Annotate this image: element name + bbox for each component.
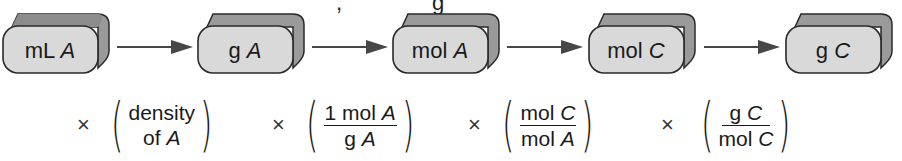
arrow-right-icon (704, 40, 780, 54)
numerator: 1 mol A (324, 100, 397, 126)
fraction: 1 mol A g A (324, 100, 397, 151)
factor-mole-ratio: × ( mol C mol A ) (468, 92, 599, 158)
arrow-right-icon (507, 40, 583, 54)
factor-text: density of A (129, 100, 196, 150)
left-paren: ( (701, 96, 713, 154)
factor-molar-mass-a: × ( 1 mol A g A ) (272, 92, 419, 158)
denominator: mol A (521, 126, 575, 151)
right-paren: ) (778, 96, 790, 154)
left-paren: ( (111, 96, 123, 154)
left-paren: ( (502, 96, 514, 154)
fraction: mol C mol A (520, 100, 577, 151)
multiply-sign: × (272, 112, 285, 138)
right-paren: ) (402, 96, 414, 154)
node-g-a: g A (197, 13, 307, 75)
right-paren: ) (581, 96, 593, 154)
numerator: mol C (520, 100, 577, 126)
denominator: mol C (719, 126, 774, 151)
fraction: g C mol C (719, 100, 774, 151)
cropped-text-fragment: , (336, 0, 342, 16)
left-paren: ( (306, 96, 318, 154)
arrow-right-icon (312, 40, 388, 54)
factor-density: × ( density of A ) (77, 92, 218, 158)
node-label: mL A (2, 38, 98, 64)
node-label: g C (785, 38, 881, 64)
node-mol-c: mol C (588, 13, 698, 75)
denominator: g A (344, 126, 376, 151)
node-label: mol C (588, 38, 684, 64)
arrow-right-icon (117, 40, 193, 54)
factor-molar-mass-c: × ( g C mol C ) (661, 92, 796, 158)
multiply-sign: × (468, 112, 481, 138)
node-label: g A (197, 38, 293, 64)
multiply-sign: × (77, 112, 90, 138)
node-g-c: g C (785, 13, 895, 75)
multiply-sign: × (661, 112, 674, 138)
right-paren: ) (200, 96, 212, 154)
numerator: g C (722, 100, 771, 126)
node-mol-a: mol A (392, 13, 502, 75)
node-ml-a: mL A (2, 13, 112, 75)
node-label: mol A (392, 38, 488, 64)
